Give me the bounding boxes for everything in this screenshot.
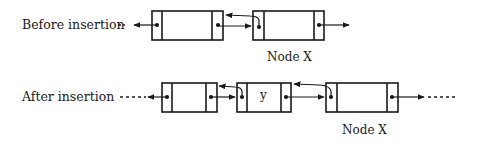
after-insertion-label: After insertion xyxy=(22,91,114,104)
before-insertion-label: Before insertion xyxy=(22,19,125,32)
node-x-after xyxy=(326,83,398,112)
node-x-label-after: Node X xyxy=(342,124,387,136)
node-a-after xyxy=(162,83,217,112)
after-row xyxy=(120,83,458,112)
node-x-label-before: Node X xyxy=(267,51,312,63)
node-x-before xyxy=(253,11,324,40)
node-a-before xyxy=(152,11,223,40)
node-y-value: y xyxy=(260,89,267,101)
before-row xyxy=(118,11,349,40)
